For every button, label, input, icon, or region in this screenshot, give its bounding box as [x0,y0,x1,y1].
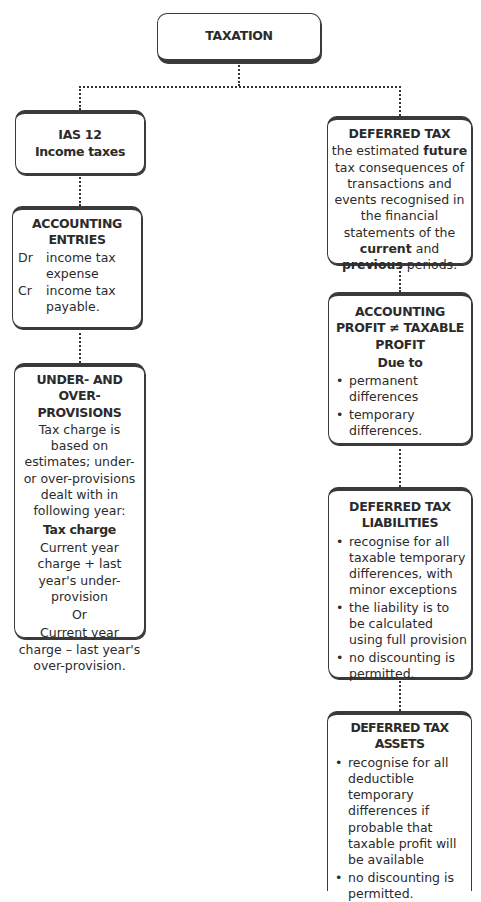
entry-credit: Cr income tax payable. [16,283,138,316]
connector-horizontal [79,86,401,88]
deferred-tax-liabilities-box: DEFERRED TAX LIABILITIES recognise for a… [328,487,472,678]
due-to-subtitle: Due to [332,355,468,371]
under-over-title: UNDER- AND OVER-PROVISIONS [18,372,141,421]
connector-to-deferred-tax [399,86,401,116]
connector-profit-to-liabilities [399,444,401,487]
accounting-profit-box: ACCOUNTING PROFIT ≠ TAXABLE PROFIT Due t… [328,292,472,444]
deferred-tax-box: DEFERRED TAX the estimated future tax co… [327,116,472,264]
deferred-tax-definition: the estimated future tax consequences of… [331,143,468,273]
assets-title: DEFERRED TAX ASSETS [331,720,468,753]
deferred-tax-title: DEFERRED TAX [331,126,468,142]
connector-root-down [238,62,240,86]
taxation-title: TAXATION [205,28,272,44]
connector-ias-to-entries [79,174,81,206]
entry-debit-side: Dr [16,250,40,283]
list-item: the liability is to be calculated using … [332,600,468,649]
tax-charge-option-2: Current year charge – last year's over-p… [18,625,141,674]
emphasis-future: future [423,143,467,158]
ias12-line2: Income taxes [35,144,125,160]
liabilities-list: recognise for all taxable temporary diff… [332,534,468,683]
connector-to-ias [79,86,81,110]
emphasis-current: current [360,241,412,256]
entry-credit-side: Cr [16,283,40,316]
differences-list: permanent differences temporary differen… [332,373,468,439]
list-item: no discounting is permitted. [332,650,468,683]
accounting-entries-box: ACCOUNTING ENTRIES Dr income tax expense… [12,206,142,328]
tax-charge-or: Or [18,607,141,623]
tax-charge-option-1: Current year charge + last year's under-… [18,540,141,605]
ias12-box: IAS 12 Income taxes [15,110,145,174]
taxation-root-box: TAXATION [157,13,321,62]
entry-debit: Dr income tax expense [16,250,138,283]
connector-liabilities-to-assets [399,678,401,711]
under-over-provisions-box: UNDER- AND OVER-PROVISIONS Tax charge is… [14,363,145,638]
emphasis-previous: previous [342,257,403,272]
entry-debit-text: income tax expense [40,250,138,283]
connector-entries-to-under-over [79,328,81,363]
list-item: recognise for all deductible temporary d… [331,755,468,869]
accounting-profit-title: ACCOUNTING PROFIT ≠ TAXABLE PROFIT [332,304,468,353]
list-item: recognise for all taxable temporary diff… [332,534,468,599]
deferred-tax-assets-box: DEFERRED TAX ASSETS recognise for all de… [327,711,472,891]
list-item: no discounting is permitted. [331,870,468,902]
list-item: temporary differences. [332,407,468,440]
entry-credit-text: income tax payable. [40,283,138,316]
accounting-entries-title: ACCOUNTING ENTRIES [16,216,138,249]
liabilities-title: DEFERRED TAX LIABILITIES [332,499,468,532]
under-over-description: Tax charge is based on estimates; under-… [18,422,141,520]
tax-charge-subtitle: Tax charge [18,522,141,538]
ias12-line1: IAS 12 [58,127,101,143]
assets-list: recognise for all deductible temporary d… [331,755,468,902]
list-item: permanent differences [332,373,468,406]
